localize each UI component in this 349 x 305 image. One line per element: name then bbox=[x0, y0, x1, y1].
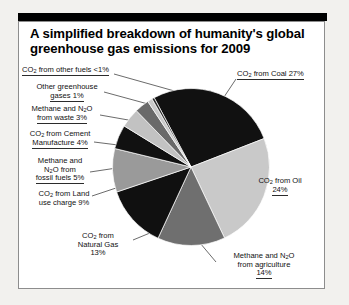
page-title-line-2: greenhouse gas emissions for 2009 bbox=[30, 42, 310, 57]
label-co2-coal: CO2 from Coal 27% bbox=[237, 70, 304, 80]
infographic-figure: A simplified breakdown of humanity's glo… bbox=[0, 0, 349, 305]
title-rule-bar bbox=[18, 13, 327, 21]
label-co2-oil: CO2 from Oil 24% bbox=[248, 177, 312, 196]
subscript: 2 bbox=[83, 107, 86, 113]
subscript: 2 bbox=[270, 179, 273, 185]
label-text: from other fuels <1% bbox=[37, 65, 109, 74]
label-text: Methane and N bbox=[234, 251, 286, 260]
label-line-3: 14% bbox=[256, 269, 271, 279]
label-line-2: use charge 9% bbox=[22, 199, 106, 208]
label-text: O bbox=[289, 251, 295, 260]
label-line-2: Manufacture 4% bbox=[32, 139, 87, 149]
page-title-line-1: A simplified breakdown of humanity's glo… bbox=[30, 27, 310, 42]
label-text: CO bbox=[82, 231, 93, 240]
label-text: CO bbox=[258, 176, 269, 185]
label-text: O bbox=[87, 104, 93, 113]
label-text: Methane and N bbox=[32, 104, 84, 113]
label-text: from Cement bbox=[44, 129, 90, 138]
label-co2-natural-gas: CO2 from Natural Gas 13% bbox=[62, 232, 134, 258]
label-text: from bbox=[97, 231, 114, 240]
subscript: 2 bbox=[50, 192, 53, 198]
label-line-2: gases 1% bbox=[50, 92, 83, 102]
label-methane-n2o-fossil-fuels: Methane and N2O from fossil fuels 5% bbox=[20, 157, 100, 184]
label-text: CO bbox=[39, 189, 50, 198]
subscript: 2 bbox=[41, 132, 44, 138]
label-co2-cement-manufacture: CO2 from Cement Manufacture 4% bbox=[14, 130, 106, 149]
subscript: 2 bbox=[248, 72, 251, 78]
subscript: 2 bbox=[285, 254, 288, 260]
label-text: from Land bbox=[53, 189, 89, 198]
label-methane-n2o-agriculture: Methane and N2O from agriculture 14% bbox=[218, 252, 310, 279]
label-text: from Coal 27% bbox=[252, 69, 304, 78]
label-text: from Oil bbox=[273, 176, 302, 185]
label-text: CO bbox=[237, 69, 248, 78]
subscript: 2 bbox=[50, 168, 53, 174]
label-line-2: from waste 3% bbox=[37, 114, 87, 124]
pie-chart bbox=[112, 88, 270, 246]
label-co2-other-fuels: CO2 from other fuels <1% bbox=[22, 66, 109, 76]
label-co2-land-use-charge: CO2 from Land use charge 9% bbox=[22, 190, 106, 207]
label-other-greenhouse-gases: Other greenhouse gases 1% bbox=[26, 83, 108, 102]
pie-svg bbox=[112, 88, 270, 246]
subscript: 2 bbox=[33, 68, 36, 74]
label-line-3: fossil fuels 5% bbox=[36, 174, 85, 184]
label-line-2: 24% bbox=[272, 186, 287, 196]
label-line-3: 13% bbox=[62, 249, 134, 258]
label-text: CO bbox=[30, 129, 41, 138]
label-methane-n2o-waste: Methane and N2O from waste 3% bbox=[16, 105, 108, 124]
subscript: 2 bbox=[93, 234, 96, 240]
label-text: CO bbox=[22, 65, 33, 74]
page-title: A simplified breakdown of humanity's glo… bbox=[30, 27, 310, 56]
